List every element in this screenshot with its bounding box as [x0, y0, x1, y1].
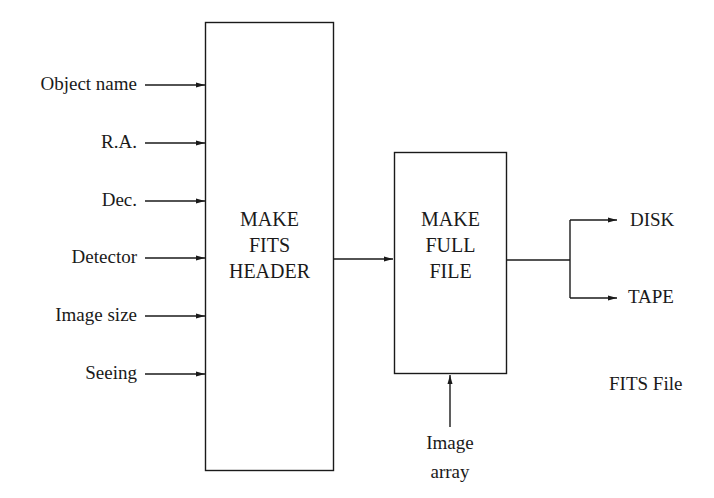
image-array-label: Image array — [400, 428, 500, 486]
input-label-detector: Detector — [72, 246, 137, 268]
header-line-1: MAKE — [205, 206, 334, 232]
output-label-disk: DISK — [630, 209, 674, 231]
full-file-line-3: FILE — [394, 258, 507, 284]
input-label-object-name: Object name — [40, 73, 137, 95]
input-label-image-size: Image size — [55, 304, 137, 326]
header-line-3: HEADER — [205, 258, 334, 284]
image-array-line-1: Image — [400, 428, 500, 457]
image-array-line-2: array — [400, 457, 500, 486]
full-file-line-1: MAKE — [394, 206, 507, 232]
header-line-2: FITS — [205, 232, 334, 258]
make-fits-header-label: MAKE FITS HEADER — [205, 206, 334, 284]
input-label-seeing: Seeing — [85, 362, 137, 384]
input-label-dec: Dec. — [102, 189, 137, 211]
fits-file-caption: FITS File — [609, 373, 682, 395]
make-full-file-label: MAKE FULL FILE — [394, 206, 507, 284]
output-label-tape: TAPE — [628, 286, 674, 308]
full-file-line-2: FULL — [394, 232, 507, 258]
input-label-ra: R.A. — [101, 131, 137, 153]
